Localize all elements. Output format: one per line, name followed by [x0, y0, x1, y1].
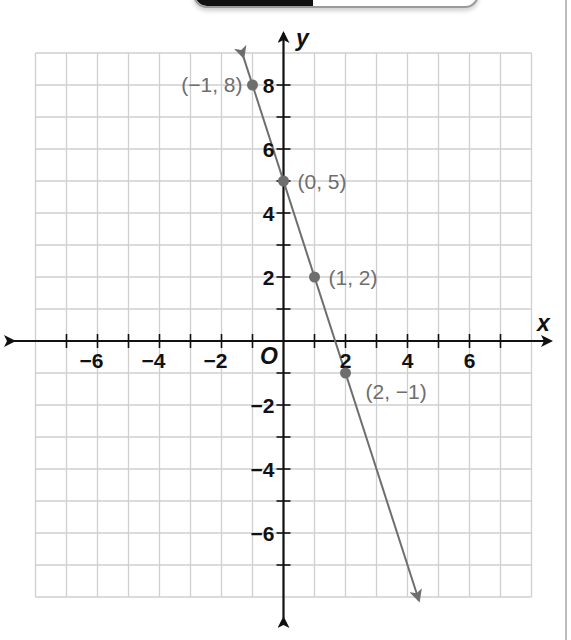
y-axis-label: y: [295, 25, 310, 51]
origin-label: O: [260, 343, 278, 369]
y-tick-label: 4: [263, 202, 275, 225]
point-label: (1, 2): [329, 266, 378, 289]
y-tick-label: 6: [263, 138, 275, 161]
x-tick-label: −6: [80, 349, 104, 372]
point-label: (−1, 8): [181, 73, 242, 96]
y-tick-label: −2: [251, 394, 275, 417]
x-tick-label: −2: [204, 349, 228, 372]
x-tick-label: 6: [464, 349, 476, 372]
y-tick-label: −4: [251, 458, 275, 481]
data-point: [278, 176, 289, 187]
y-tick-label: 8: [263, 74, 275, 97]
point-label: (2, −1): [366, 380, 427, 403]
point-label: (0, 5): [298, 170, 347, 193]
data-point: [247, 80, 258, 91]
data-point: [309, 272, 320, 283]
data-point: [340, 368, 351, 379]
y-tick-label: 2: [263, 266, 275, 289]
y-tick-label: −6: [251, 522, 275, 545]
x-axis-label: x: [535, 310, 551, 336]
x-tick-label: 4: [402, 349, 414, 372]
x-tick-label: −4: [142, 349, 166, 372]
coordinate-plane: −6−4−22468642−2−4−6 (−1, 8)(0, 5)(1, 2)(…: [0, 0, 571, 640]
